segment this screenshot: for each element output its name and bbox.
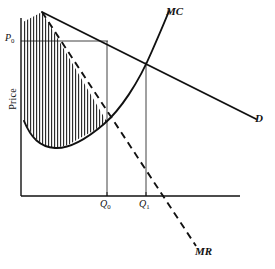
q1-subscript: 1: [146, 203, 149, 210]
economics-diagram: MC D MR P0 Q0 Q1 Price: [0, 0, 275, 269]
y-axis-title: Price: [8, 76, 18, 122]
diagram-canvas: [0, 0, 275, 269]
q0-axis-label: Q0: [100, 199, 111, 209]
mr-curve-label: MR: [195, 246, 212, 257]
demand-curve-label: D: [255, 113, 263, 124]
p0-axis-label: P0: [5, 33, 15, 43]
p0-subscript: 0: [11, 37, 14, 44]
hatched-deadweight-region: [20, 8, 120, 158]
q0-subscript: 0: [107, 203, 110, 210]
q1-axis-label: Q1: [139, 199, 150, 209]
mc-curve-label: MC: [166, 6, 183, 17]
